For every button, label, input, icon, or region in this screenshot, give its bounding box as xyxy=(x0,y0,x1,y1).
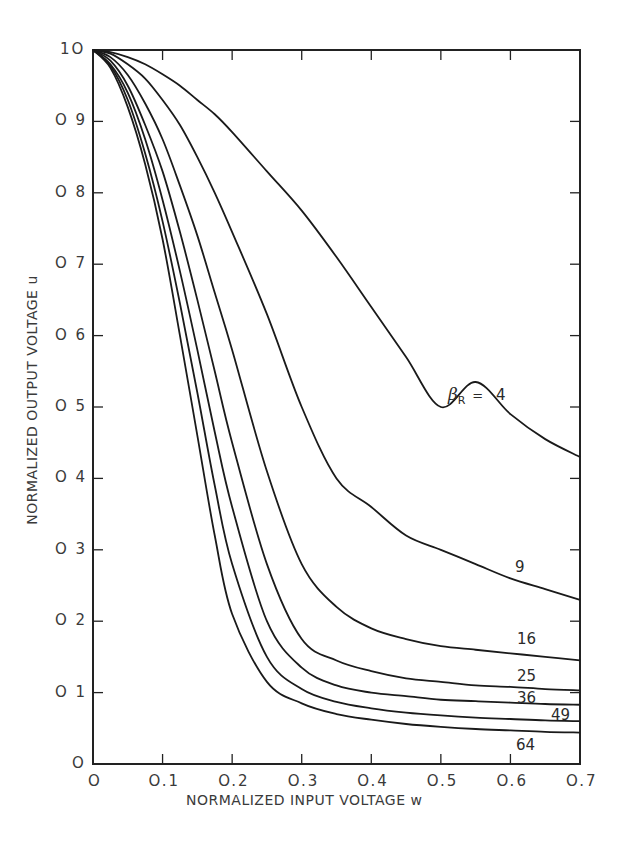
curve-beta-9 xyxy=(93,50,580,600)
curve-label-25: 25 xyxy=(517,667,536,685)
x-tick-label: O.5 xyxy=(427,772,459,790)
curve-label-49: 49 xyxy=(551,706,570,724)
x-tick-label: O.3 xyxy=(288,772,320,790)
chart-canvas xyxy=(0,0,620,850)
y-tick-label: O 6 xyxy=(55,326,87,344)
y-axis-label: NORMALIZED OUTPUT VOLTAGE u xyxy=(24,250,40,550)
y-tick-label: O 8 xyxy=(55,183,87,201)
y-tick-label: O 7 xyxy=(55,254,87,272)
y-tick-label: O xyxy=(72,754,86,772)
y-tick-label: O 1 xyxy=(55,683,87,701)
curve-beta-64 xyxy=(93,50,580,733)
beta-symbol: βR xyxy=(448,384,465,404)
y-tick-label: 1O xyxy=(60,40,85,58)
curve-label-beta-4: βR = 4 xyxy=(448,384,506,407)
curve-label-64: 64 xyxy=(516,736,535,754)
curve-label-36: 36 xyxy=(517,689,536,707)
y-tick-label: O 5 xyxy=(55,397,87,415)
x-tick-label: O.7 xyxy=(566,772,598,790)
x-tick-label: O.2 xyxy=(218,772,250,790)
x-tick-label: O xyxy=(88,772,102,790)
curves xyxy=(93,50,580,733)
equals-sign: = xyxy=(472,388,483,403)
x-tick-label: O.4 xyxy=(357,772,389,790)
x-tick-label: O.1 xyxy=(149,772,181,790)
x-axis-label: NORMALIZED INPUT VOLTAGE w xyxy=(186,792,422,808)
curve-label-16: 16 xyxy=(517,630,536,648)
curve-value-4: 4 xyxy=(496,386,506,404)
curve-beta-49 xyxy=(93,50,580,721)
curve-label-9: 9 xyxy=(515,558,525,576)
y-tick-label: O 4 xyxy=(55,468,87,486)
x-tick-label: O.6 xyxy=(496,772,528,790)
y-tick-label: O 2 xyxy=(55,611,87,629)
plot-frame xyxy=(93,50,580,764)
axis-ticks xyxy=(93,50,580,764)
y-tick-label: O 9 xyxy=(55,111,87,129)
curve-beta-16 xyxy=(93,50,580,660)
y-tick-label: O 3 xyxy=(55,540,87,558)
